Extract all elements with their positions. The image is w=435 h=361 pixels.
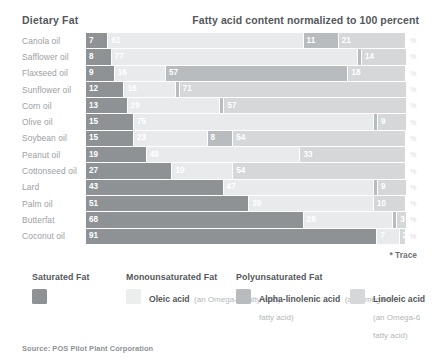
bar-segment-ole: 48 [147,147,301,162]
bar-segment-lin: 54 [233,163,406,178]
bar-value-label: 10 [377,200,386,208]
bar-segment-sat: 7 [86,33,108,48]
bar-segment-sat: 8 [86,49,112,64]
legend-sub-linoleic-2: fatty acid) [373,331,408,340]
bar-segment-lin: 9 [378,180,407,195]
bar-value-label: 8 [89,53,94,61]
bar-value-label: 29 [131,102,140,110]
row-bars: 1329157 [86,98,406,113]
row-percent-symbol: % [406,131,420,146]
row-label-olive-oil: Olive oil [22,114,86,129]
legend-group-polyunsaturated: Polyunsaturated Fat [236,272,322,282]
chart-row: Peanut oil194833% [22,147,420,163]
row-label-butterfat: Butterfat [22,212,86,227]
row-percent-symbol: % [406,82,420,97]
bar-segment-lin: 71 [180,82,407,97]
row-bars: 271954 [86,163,406,178]
bar-segment-sat: 9 [86,66,115,81]
bar-segment-sat: 68 [86,212,304,227]
bar-segment-lin: 3 [397,212,407,227]
bar-value-label: 7 [380,232,385,240]
bar-segment-ole: 19 [172,163,233,178]
legend-entries: Oleic acid (an Omega-9 fatty acid) Alpha… [22,288,422,336]
legend-label-alpha-linolenic: Alpha-linolenic acid [259,294,340,304]
bar-segment-sat: 91 [86,229,377,244]
row-label-lard: Lard [22,180,86,195]
legend-group-titles: Saturated Fat Monounsaturated Fat Polyun… [22,272,422,288]
bar-value-label: 3 [400,216,405,224]
swatch-oleic-icon [126,289,141,304]
row-percent-symbol: % [406,98,420,113]
bar-value-label: 8 [211,134,216,142]
bar-value-label: 18 [351,69,360,77]
bar-segment-ole: 77 [112,49,358,64]
bar-value-label: 13 [89,102,98,110]
bar-value-label: 43 [89,183,98,191]
row-label-safflower-oil: Safflower oil [22,49,86,64]
chart-page: Dietary Fat Fatty acid content normalize… [0,0,435,361]
chart-row: Butterfat682813% [22,212,420,228]
chart-row: Olive oil157519% [22,114,420,130]
bar-segment-sat: 13 [86,98,128,113]
row-label-corn-oil: Corn oil [22,98,86,113]
chart-row: Soybean oil1523854% [22,131,420,147]
bar-segment-ole: 29 [128,98,221,113]
swatch-alpha-linolenic-icon [236,289,251,304]
row-bars: 877114 [86,49,406,64]
bar-segment-ala: 8 [208,131,234,146]
page-title: Dietary Fat [22,14,78,26]
bar-segment-ala: 57 [166,66,348,81]
bar-segment-ole: 39 [249,196,374,211]
bar-value-label: 2 [403,232,406,240]
bar-value-label: 91 [89,232,98,240]
bar-segment-sat: 51 [86,196,249,211]
row-percent-symbol: % [406,147,420,162]
bar-value-label: 19 [175,167,184,175]
row-label-peanut-oil: Peanut oil [22,147,86,162]
bar-segment-ole: 47 [224,180,374,195]
row-bars: 682813 [86,212,406,227]
row-bars: 9165718 [86,66,406,81]
bar-value-label: 19 [89,151,98,159]
row-bars: 1523854 [86,131,406,146]
bar-segment-lin: 33 [300,147,406,162]
bar-segment-ole: 61 [108,33,303,48]
chart-row: Sunflower oil1216171% [22,82,420,98]
legend-sub-linoleic-1: (an Omega-6 [373,313,420,322]
bar-value-label: 48 [150,151,159,159]
bar-segment-sat: 19 [86,147,147,162]
row-percent-symbol: % [406,49,420,64]
bar-segment-ole: 16 [115,66,166,81]
bar-value-label: 47 [227,183,236,191]
bar-value-label: 57 [169,69,178,77]
chart-row: Lard434719% [22,180,420,196]
bar-value-label: 39 [252,200,261,208]
row-percent-symbol: % [406,114,420,129]
bar-segment-sat: 15 [86,114,134,129]
row-percent-symbol: % [406,196,420,211]
row-label-palm-oil: Palm oil [22,196,86,211]
row-bars: 9172 [86,229,406,244]
bar-value-label: 77 [115,53,124,61]
swatch-linoleic-icon [350,289,365,304]
bar-segment-lin: 2 [400,229,406,244]
row-label-cottonseed-oil: Cottonseed oil [22,163,86,178]
bar-segment-lin: 21 [339,33,406,48]
legend-label-oleic: Oleic acid [149,294,190,304]
bar-segment-ole: 23 [134,131,208,146]
row-bars: 7611121 [86,33,406,48]
legend-item-saturated-fat [32,288,55,304]
bar-segment-lin: 57 [224,98,406,113]
row-label-flaxseed-oil: Flaxseed oil [22,66,86,81]
bar-segment-ole: 16 [124,82,175,97]
bar-segment-lin: 14 [362,49,407,64]
bar-value-label: 15 [89,134,98,142]
chart-row: Canola oil7611121% [22,33,420,49]
row-label-soybean-oil: Soybean oil [22,131,86,146]
bar-value-label: 12 [89,85,98,93]
bar-value-label: 16 [118,69,127,77]
bar-segment-lin: 18 [348,66,406,81]
bar-value-label: 71 [183,85,192,93]
chart-subtitle: Fatty acid content normalized to 100 per… [192,14,419,26]
row-bars: 1216171 [86,82,406,97]
